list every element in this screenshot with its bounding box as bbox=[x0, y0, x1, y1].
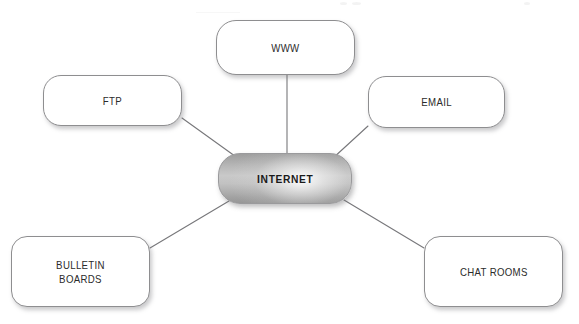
node-email[interactable]: EMAIL bbox=[368, 76, 505, 128]
node-email-label: EMAIL bbox=[421, 95, 452, 109]
connector-internet-to-bulletin-boards bbox=[150, 201, 229, 248]
node-bulletin-boards-label: BULLETIN BOARDS bbox=[56, 258, 105, 286]
node-chat-rooms[interactable]: CHAT ROOMS bbox=[424, 236, 563, 307]
node-internet-label: INTERNET bbox=[257, 173, 313, 185]
node-chat-rooms-label: CHAT ROOMS bbox=[460, 265, 528, 279]
node-ftp[interactable]: FTP bbox=[43, 75, 182, 126]
diagram-canvas: WWW FTP EMAIL BULLETIN BOARDS CHAT ROOMS… bbox=[0, 0, 579, 324]
node-www-label: WWW bbox=[271, 41, 299, 55]
node-www[interactable]: WWW bbox=[216, 20, 355, 75]
node-ftp-label: FTP bbox=[103, 94, 122, 108]
node-bulletin-boards[interactable]: BULLETIN BOARDS bbox=[11, 236, 150, 307]
connector-internet-to-ftp bbox=[182, 118, 239, 159]
connector-internet-to-chat-rooms bbox=[344, 200, 424, 248]
node-internet-hub[interactable]: INTERNET bbox=[218, 153, 352, 204]
